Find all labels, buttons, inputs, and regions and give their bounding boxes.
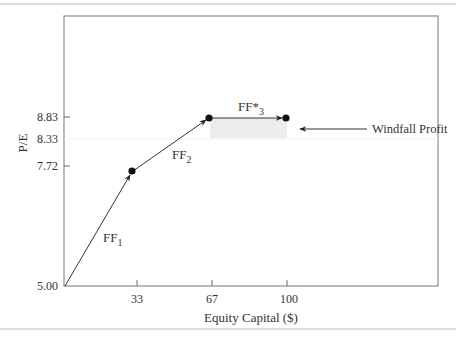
- xtick-label-100: 100: [280, 292, 298, 306]
- xtick-label-67: 67: [206, 292, 218, 306]
- chart: 8.83 8.33 7.72 5.00 33 67 100 Equity Cap…: [0, 0, 456, 337]
- ff2-arrow: [133, 120, 206, 171]
- point-67: [205, 114, 212, 121]
- windfall-profit-label: Windfall Profit: [372, 122, 448, 136]
- ff3-label: FF*3: [238, 99, 264, 117]
- ytick-label-772: 7.72: [37, 159, 58, 173]
- point-100: [282, 114, 289, 121]
- y-axis-label: P/E: [15, 134, 30, 153]
- ff2-label: FF2: [172, 147, 191, 165]
- x-axis-label: Equity Capital ($): [204, 310, 298, 325]
- ytick-label-833: 8.33: [37, 132, 58, 146]
- ytick-label-883: 8.83: [37, 110, 58, 124]
- ff1-arrow: [65, 175, 130, 286]
- ff1-label: FF1: [103, 230, 122, 248]
- xtick-label-33: 33: [131, 292, 143, 306]
- windfall-region: [210, 118, 287, 138]
- ytick-label-500: 5.00: [37, 279, 58, 293]
- point-33: [128, 167, 135, 174]
